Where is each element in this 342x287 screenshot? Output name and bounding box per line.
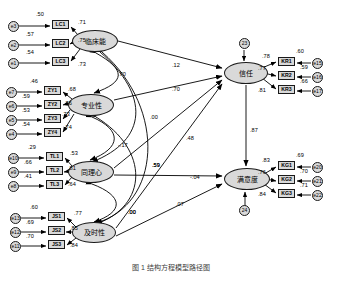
error-e4: e4 (6, 129, 17, 140)
error-e5: e5 (6, 115, 17, 126)
sem-path-diagram: 临床能专业性同理心及时性信任23满意度24LC1e3LC2e2LC3e1ZY1e… (0, 0, 342, 287)
loading-TL2: .81 (68, 166, 76, 172)
r2-KG3: .71 (300, 183, 308, 189)
path-coefficient-trust-to-satisfaction: .87 (250, 128, 258, 134)
error-e22: e22 (312, 190, 323, 201)
loading-ZY4: .74 (64, 125, 72, 131)
r2-ZY3: .53 (22, 108, 30, 114)
r2-ZY2: .59 (22, 94, 30, 100)
error-e15: e15 (312, 58, 323, 69)
correlation-clinical-empathy: .00 (150, 115, 158, 121)
loading-TL3: .64 (68, 182, 76, 188)
indicator-TL3: TL3 (46, 180, 63, 189)
loading-KR1: .78 (262, 54, 270, 60)
path-coefficient-timeliness-to-satisfaction: .07 (176, 202, 184, 208)
loading-LC3: .73 (78, 62, 86, 68)
correlation-professional-empathy: -.17 (118, 143, 128, 149)
error-e12: e12 (10, 227, 21, 238)
r2-ZY1: .46 (30, 79, 38, 85)
indicator-TL1: TL1 (46, 152, 63, 161)
latent-professional: 专业性 (68, 94, 114, 116)
loading-LC2: .75 (78, 38, 86, 44)
indicator-JS1: JS1 (48, 212, 65, 221)
r2-JS1: .60 (30, 205, 38, 211)
r2-LC2: .57 (26, 32, 34, 38)
r2-TL1: .29 (28, 145, 36, 151)
correlation-empathy-timeliness: .00 (128, 210, 136, 216)
loading-ZY2: .76 (64, 101, 72, 107)
loading-LC1: .71 (78, 20, 86, 26)
latent-timeliness: 及时性 (72, 222, 116, 243)
loading-KG3: .84 (258, 192, 266, 198)
error-e21: e21 (312, 176, 323, 187)
error-e9: e9 (8, 167, 19, 178)
error-e11: e11 (10, 241, 21, 252)
disturbance-satisfaction: 24 (239, 205, 250, 216)
disturbance-trust: 23 (239, 38, 250, 49)
indicator-KG3: KG3 (278, 189, 295, 198)
r2-JS3: .70 (26, 234, 34, 240)
error-e16: e16 (312, 72, 323, 83)
figure-caption: 图 1 结构方程模型路径图 (0, 262, 342, 272)
path-coefficient-clinical-to-trust: .12 (172, 63, 180, 69)
path-coefficient-empathy-to-trust: .48 (186, 136, 194, 142)
indicator-JS2: JS2 (48, 226, 65, 235)
indicator-KR2: KR2 (278, 71, 295, 80)
correlation-professional-timeliness: .59 (152, 163, 160, 169)
indicator-KG2: KG2 (278, 175, 295, 184)
loading-JS1: .77 (74, 211, 82, 217)
r2-JS2: .69 (26, 220, 34, 226)
r2-KG2: .70 (300, 169, 308, 175)
indicator-LC1: LC1 (52, 20, 69, 29)
loading-KR2: .77 (258, 66, 266, 72)
r2-LC3: .54 (26, 50, 34, 56)
error-e13: e13 (10, 213, 21, 224)
r2-TL3: .41 (24, 174, 32, 180)
indicator-ZY1: ZY1 (44, 86, 61, 95)
error-e3: e3 (8, 21, 19, 32)
loading-JS3: .84 (70, 243, 78, 249)
error-e10: e10 (8, 153, 19, 164)
path-coefficient-empathy-to-satisfaction: -.04 (190, 175, 200, 181)
error-e6: e6 (6, 101, 17, 112)
loading-KR3: .81 (258, 88, 266, 94)
error-e8: e8 (8, 181, 19, 192)
r2-KR3: .66 (300, 79, 308, 85)
loading-KG2: .76 (258, 170, 266, 176)
loading-TL1: .53 (70, 151, 78, 157)
loading-KG1: .83 (262, 158, 270, 164)
error-e17: e17 (312, 86, 323, 97)
r2-ZY4: .54 (22, 122, 30, 128)
error-e2: e2 (8, 40, 19, 51)
loading-ZY1: .68 (68, 87, 76, 93)
indicator-JS3: JS3 (48, 240, 65, 249)
indicator-TL2: TL2 (46, 166, 63, 175)
error-e1: e1 (8, 58, 19, 69)
path-coefficient-professional-to-trust: .70 (172, 87, 180, 93)
indicator-KR3: KR3 (278, 85, 295, 94)
indicator-LC3: LC3 (52, 57, 69, 66)
r2-KR1: .60 (296, 49, 304, 55)
error-e20: e20 (312, 162, 323, 173)
r2-LC1: .50 (36, 12, 44, 18)
indicator-KR1: KR1 (278, 57, 295, 66)
correlation-clinical-professional: .70 (118, 72, 126, 78)
loading-ZY3: .73 (62, 112, 70, 118)
error-e7: e7 (6, 87, 17, 98)
indicator-LC2: LC2 (52, 39, 69, 48)
loading-JS2: .85 (70, 226, 78, 232)
indicator-ZY2: ZY2 (44, 100, 61, 109)
indicator-ZY3: ZY3 (44, 114, 61, 123)
r2-KR2: .59 (300, 65, 308, 71)
indicator-KG1: KG1 (278, 161, 295, 170)
indicator-ZY4: ZY4 (44, 128, 61, 137)
r2-KG1: .69 (296, 153, 304, 159)
r2-TL2: .66 (24, 160, 32, 166)
